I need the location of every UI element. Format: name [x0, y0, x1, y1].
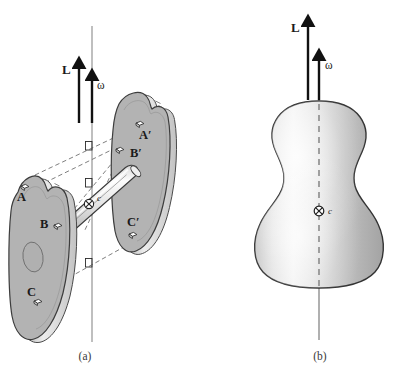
point-label-c: C: [27, 285, 36, 299]
center-of-mass-marker-a: [84, 199, 93, 208]
angular-momentum-label-a: L: [62, 62, 71, 77]
right-angle-marker-middle: [86, 179, 93, 188]
point-label-b-prime: B′: [130, 146, 142, 160]
angular-velocity-label-a: ω: [97, 79, 105, 91]
panel-b: c L ω (b): [255, 20, 384, 363]
center-of-mass-label-a: c: [97, 193, 101, 203]
angular-velocity-label-b: ω: [325, 59, 333, 71]
vector-arrows-b: [308, 24, 319, 100]
point-label-c-prime: C′: [127, 215, 140, 229]
vector-arrows-a: [79, 66, 92, 123]
figure-canvas: c L ω A B C A′ B′ C′ (a): [0, 0, 393, 374]
center-of-mass-label-b: c: [328, 206, 332, 216]
point-label-a-prime: A′: [139, 128, 152, 142]
point-label-a: A: [17, 190, 26, 204]
caption-a: (a): [79, 350, 92, 363]
physics-figure: c L ω A B C A′ B′ C′ (a): [0, 0, 393, 374]
angular-momentum-label-b: L: [291, 20, 300, 35]
center-of-mass-marker-b: [314, 206, 324, 216]
caption-b: (b): [313, 350, 327, 363]
point-label-b: B: [40, 217, 48, 231]
panel-a: c L ω A B C A′ B′ C′ (a): [9, 26, 177, 363]
